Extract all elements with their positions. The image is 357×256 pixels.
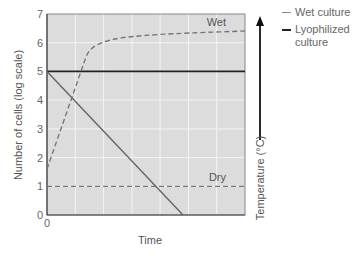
legend: Wet culture Lyophilized culture: [282, 6, 357, 53]
svg-text:0: 0: [37, 209, 43, 221]
temperature-axis-title: Temperature (°C): [254, 136, 266, 220]
svg-text:1: 1: [37, 180, 43, 192]
legend-item-wet: Wet culture: [282, 6, 357, 19]
legend-label-wet: Wet culture: [295, 6, 357, 19]
svg-text:2: 2: [37, 152, 43, 164]
x-tick-0: 0: [44, 217, 50, 229]
svg-text:6: 6: [37, 37, 43, 49]
y-axis-title: Number of cells (log scale): [12, 50, 24, 180]
wet-annotation: Wet: [207, 16, 226, 28]
x-axis-title: Time: [138, 234, 162, 246]
svg-text:5: 5: [37, 65, 43, 77]
y-tick-labels: 0 1 2 3 4 5 6 7: [37, 8, 43, 221]
svg-text:3: 3: [37, 123, 43, 135]
dry-annotation: Dry: [209, 171, 227, 183]
temperature-arrow-up-icon: [256, 16, 264, 26]
legend-label-lyophilized: Lyophilized culture: [295, 23, 357, 49]
svg-text:7: 7: [37, 8, 43, 20]
svg-text:4: 4: [37, 94, 43, 106]
legend-item-lyophilized: Lyophilized culture: [282, 23, 357, 49]
legend-swatch-lyophilized-icon: [282, 29, 291, 31]
legend-swatch-wet-icon: [282, 12, 291, 13]
plot-area: [47, 14, 245, 215]
